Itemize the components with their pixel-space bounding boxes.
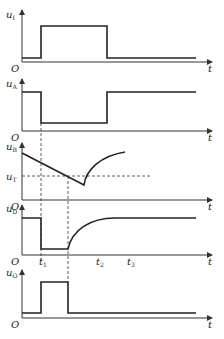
- time-mark-t1: t1: [39, 256, 47, 268]
- origin-label: O: [11, 319, 19, 330]
- panel-uB: uB uT O t: [6, 141, 213, 212]
- origin-label: O: [11, 256, 19, 267]
- axis-label-uI: uI: [6, 9, 15, 21]
- t-label: t: [208, 63, 213, 74]
- t-label: t: [208, 256, 213, 267]
- panel-uA: uA O t: [6, 78, 213, 143]
- t-label: t: [208, 132, 213, 143]
- time-mark-t2: t2: [96, 256, 104, 268]
- timing-diagram: uI O t uA O t uB uT O t uD O t t1 t2 t3: [0, 0, 224, 339]
- origin-label: O: [11, 63, 19, 74]
- waveform-uD: [22, 218, 196, 249]
- waveform-uB: [22, 152, 125, 185]
- t-label: t: [208, 201, 213, 212]
- time-mark-t3: t3: [127, 256, 135, 268]
- threshold-label-uT: uT: [6, 171, 16, 183]
- panel-uD: uD O t t1 t2 t3: [6, 203, 213, 268]
- waveform-uA: [22, 92, 196, 123]
- waveform-uO: [22, 282, 196, 313]
- panel-uI: uI O t: [6, 9, 213, 74]
- panel-uO: uO O t: [6, 267, 213, 330]
- axis-label-uA: uA: [6, 78, 17, 90]
- axis-label-uO: uO: [6, 267, 17, 279]
- t-label: t: [208, 319, 213, 330]
- waveform-uI: [22, 26, 196, 58]
